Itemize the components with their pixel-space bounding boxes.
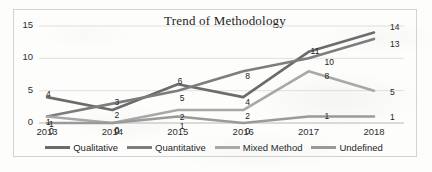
data-point-label: 11 — [311, 46, 320, 56]
x-axis-tick-label: 2018 — [354, 126, 394, 137]
legend-color-swatch — [127, 146, 152, 149]
data-point-label: 8 — [245, 71, 250, 81]
data-point-label: 1 — [325, 111, 330, 121]
data-point-label: 6 — [178, 76, 183, 86]
x-axis-tick-label: 2015 — [158, 126, 198, 137]
legend-color-swatch — [311, 146, 336, 149]
data-point-label: 0 — [114, 126, 119, 136]
data-point-label: 0 — [49, 126, 54, 136]
legend-item-qualitative[interactable]: Qualitative — [45, 142, 118, 153]
data-point-label: 0 — [245, 126, 250, 136]
y-axis-tick-label: 10 — [7, 51, 33, 62]
y-axis-tick-label: 5 — [7, 84, 33, 95]
legend-label: Qualitative — [73, 142, 118, 153]
data-point-label: 5 — [180, 93, 185, 103]
x-axis-tick-label: 2017 — [289, 126, 329, 137]
legend-label: Mixed Method — [243, 142, 303, 153]
y-axis-tick-label: 15 — [7, 19, 33, 30]
chart-legend: QualitativeQuantitativeMixed MethodUndef… — [14, 139, 414, 155]
data-point-label: 3 — [114, 97, 119, 107]
data-point-label: 2 — [114, 110, 119, 120]
legend-label: Undefined — [339, 142, 382, 153]
x-axis-tick-label: 2016 — [223, 126, 263, 137]
data-point-label: 5 — [390, 87, 395, 97]
legend-color-swatch — [45, 146, 70, 149]
legend-item-undefined[interactable]: Undefined — [311, 142, 382, 153]
data-point-label: 1 — [390, 112, 395, 122]
data-point-label: 8 — [325, 71, 330, 81]
x-axis-tick-label: 2014 — [92, 126, 132, 137]
data-point-label: 4 — [245, 97, 250, 107]
data-point-label: 14 — [390, 22, 399, 32]
legend-color-swatch — [215, 146, 240, 149]
x-axis-tick-label: 2013 — [27, 126, 67, 137]
data-point-label: 4 — [46, 89, 51, 99]
data-point-label: 10 — [325, 57, 334, 67]
data-point-label: 13 — [390, 39, 399, 49]
data-point-label: 2 — [245, 111, 250, 121]
scanned-page-background: Trend of Methodology 0510152013201420152… — [0, 0, 432, 172]
legend-item-mixed-method[interactable]: Mixed Method — [215, 142, 303, 153]
legend-item-quantitative[interactable]: Quantitative — [127, 142, 206, 153]
legend-label: Quantitative — [155, 142, 206, 153]
data-point-label: 1 — [180, 121, 185, 131]
